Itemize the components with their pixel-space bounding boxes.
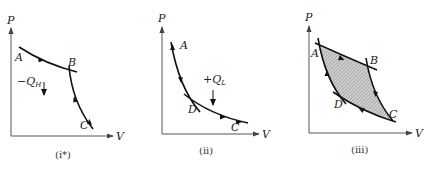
panel-iii: P V A B C D (iii) bbox=[304, 11, 424, 155]
v-axis-label: V bbox=[415, 127, 424, 140]
panel-ii: P V A D C +QL (ii) bbox=[157, 12, 271, 156]
heat-label: +QL bbox=[203, 73, 226, 87]
p-axis-label: P bbox=[6, 14, 15, 27]
carnot-cycle-figure: P V A B C −QH (i*) P V A D C +QL (i bbox=[0, 0, 424, 173]
point-a-label: A bbox=[14, 51, 23, 64]
point-c-label: C bbox=[80, 119, 89, 132]
point-a-label: A bbox=[179, 39, 188, 52]
cycle-work-area bbox=[320, 47, 391, 119]
point-a-label: A bbox=[310, 47, 319, 60]
point-b-label: B bbox=[67, 56, 76, 69]
heat-label: −QH bbox=[17, 75, 42, 89]
v-axis-label: V bbox=[116, 130, 125, 143]
p-axis-label: P bbox=[157, 12, 166, 25]
v-axis-label: V bbox=[262, 128, 271, 141]
panel-caption: (ii) bbox=[199, 145, 213, 156]
p-axis-label: P bbox=[304, 11, 313, 24]
point-b-label: B bbox=[369, 54, 378, 67]
point-c-label: C bbox=[231, 121, 240, 134]
panel-caption: (i*) bbox=[55, 149, 71, 160]
point-c-label: C bbox=[389, 108, 398, 121]
point-d-label: D bbox=[187, 103, 197, 116]
panel-caption: (iii) bbox=[351, 144, 368, 155]
direction-arrow-icon bbox=[220, 114, 226, 120]
panel-i-star: P V A B C −QH (i*) bbox=[6, 14, 125, 160]
point-d-label: D bbox=[333, 98, 343, 111]
